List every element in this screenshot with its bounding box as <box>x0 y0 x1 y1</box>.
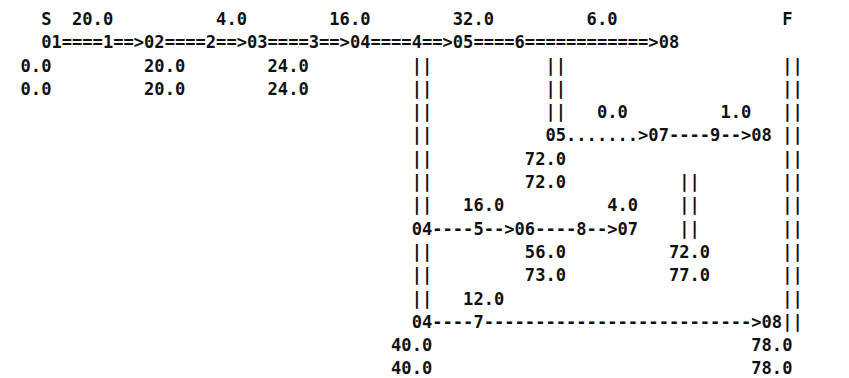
network-activity-diagram: S 20.0 4.0 16.0 32.0 6.0 F 01====1==>02=… <box>0 8 803 378</box>
